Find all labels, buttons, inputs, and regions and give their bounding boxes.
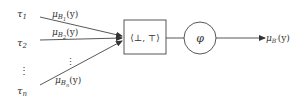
tau-2-label: τ2 bbox=[17, 37, 28, 50]
mu-bn-label: μBn(y) bbox=[55, 75, 81, 88]
bilattice-box-label: ⟨⊥, ⊤⟩ bbox=[130, 33, 160, 43]
input-arrow-2 bbox=[40, 38, 122, 40]
mu-b2-label: μB2(y) bbox=[52, 27, 78, 40]
phi-label: φ bbox=[196, 32, 204, 45]
output-label: μB′(y) bbox=[266, 33, 290, 44]
mu-b1-label: μB1(y) bbox=[52, 9, 78, 22]
tau-1-label: τ1 bbox=[17, 8, 27, 21]
aggregation-diagram: τ1 τ2 ⋮ τn μB1(y) μB2(y) ⋮ μBn(y) ⟨⊥, ⊤⟩… bbox=[0, 0, 308, 102]
tau-ellipsis: ⋮ bbox=[19, 65, 29, 76]
mu-ellipsis: ⋮ bbox=[66, 57, 75, 67]
tau-n-label: τn bbox=[17, 85, 28, 98]
